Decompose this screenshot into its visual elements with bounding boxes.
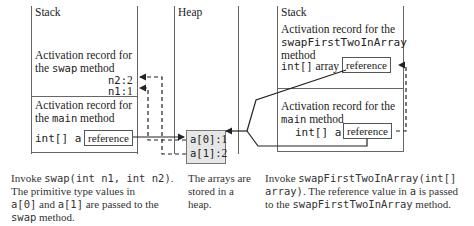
caption-left: Invoke swap(int n1, int n2). The primiti…: [11, 172, 186, 224]
caption-middle: The arrays are stored in a heap.: [188, 172, 258, 211]
caption-right: Invoke swapFirstTwoInArray(int[] array).…: [265, 172, 474, 211]
